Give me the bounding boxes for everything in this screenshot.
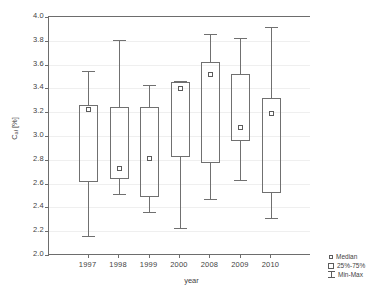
y-tick-label: 3.8 (16, 36, 44, 44)
legend-label-range: Min-Max (338, 270, 363, 279)
whisker-cap-max (234, 38, 247, 39)
legend-item-range: Min-Max (327, 270, 365, 279)
legend-item-quartiles: 25%-75% (327, 261, 365, 270)
y-tick-label: 3.2 (16, 107, 44, 115)
y-tick-mark (45, 207, 49, 208)
y-tick-label: 2.4 (16, 202, 44, 210)
iqr-box (140, 107, 159, 196)
median-marker (117, 166, 122, 171)
box-plot-chart: 2.02.22.42.62.83.03.23.43.63.84.0 199719… (0, 0, 383, 297)
whisker-cap-max (143, 85, 156, 86)
y-tick-label: 3.6 (16, 60, 44, 68)
y-tick-mark (45, 136, 49, 137)
whisker-lower (149, 197, 150, 212)
x-tick-mark (179, 254, 180, 258)
whisker-cap-min (174, 228, 187, 229)
median-marker (238, 125, 243, 130)
whisker-cap-max (265, 27, 278, 28)
median-marker (86, 107, 91, 112)
median-marker (147, 156, 152, 161)
whisker-lower (240, 141, 241, 180)
iqr-box (79, 105, 98, 182)
whisker-upper (240, 38, 241, 74)
iqr-box (201, 62, 220, 163)
y-tick-mark (45, 184, 49, 185)
median-marker-icon (329, 255, 333, 259)
y-tick-mark (45, 231, 49, 232)
legend-label-quartiles: 25%-75% (337, 261, 365, 270)
y-tick-label: 2.0 (16, 250, 44, 258)
y-tick-mark (45, 255, 49, 256)
legend-item-median: Median (327, 252, 365, 261)
whisker-cap-min (204, 199, 217, 200)
whisker-cap-min (143, 212, 156, 213)
x-tick-mark (149, 254, 150, 258)
x-tick-label-2010: 2010 (250, 261, 290, 269)
y-axis-title: Cał [%] (10, 99, 19, 159)
whisker-cap-min (265, 218, 278, 219)
whisker-cap-max (113, 40, 126, 41)
box-plot-2010 (251, 17, 291, 254)
legend: Median 25%-75% Min-Max (327, 252, 365, 279)
whisker-cap-max (204, 34, 217, 35)
y-tick-label: 2.2 (16, 226, 44, 234)
y-tick-label: 2.8 (16, 155, 44, 163)
whisker-cap-max (82, 71, 95, 72)
y-tick-label: 3.4 (16, 83, 44, 91)
y-tick-mark (45, 160, 49, 161)
whisker-lower (180, 157, 181, 227)
whisker-upper (210, 34, 211, 63)
iqr-box (171, 82, 190, 157)
y-tick-mark (45, 88, 49, 89)
y-tick-label: 2.6 (16, 179, 44, 187)
whisker-lower (88, 182, 89, 236)
median-marker (178, 86, 183, 91)
y-tick-mark (45, 17, 49, 18)
median-marker (208, 72, 213, 77)
whisker-marker-icon (328, 271, 335, 278)
iqr-box (231, 74, 250, 141)
whisker-lower (210, 163, 211, 199)
x-tick-mark (88, 254, 89, 258)
x-tick-mark (118, 254, 119, 258)
whisker-cap-min (82, 236, 95, 237)
x-tick-mark (270, 254, 271, 258)
whisker-upper (88, 71, 89, 106)
whisker-upper (149, 85, 150, 108)
whisker-lower (271, 193, 272, 218)
median-marker (269, 111, 274, 116)
plot-area (48, 16, 310, 254)
x-axis-title: year (0, 276, 383, 285)
y-tick-label: 3.0 (16, 131, 44, 139)
y-tick-mark (45, 65, 49, 66)
x-tick-mark (209, 254, 210, 258)
whisker-lower (119, 179, 120, 194)
whisker-upper (119, 40, 120, 108)
y-tick-label: 4.0 (16, 12, 44, 20)
box-marker-icon (328, 263, 334, 269)
whisker-cap-min (113, 194, 126, 195)
x-tick-mark (240, 254, 241, 258)
y-tick-mark (45, 112, 49, 113)
y-tick-mark (45, 41, 49, 42)
whisker-cap-min (234, 180, 247, 181)
legend-label-median: Median (336, 252, 357, 261)
whisker-upper (271, 27, 272, 98)
